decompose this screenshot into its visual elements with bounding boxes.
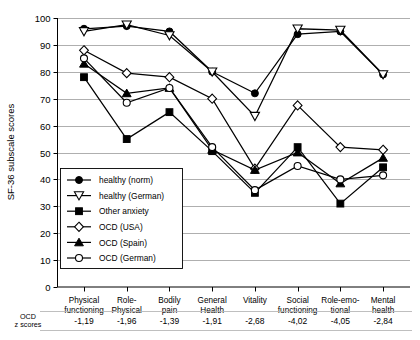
y-tick-label: 50 (40, 148, 51, 159)
y-tick-label: 40 (40, 174, 51, 185)
x-category-label: General (198, 296, 227, 305)
legend-item-ocd-spain-[interactable]: OCD (Spain) (67, 238, 147, 248)
data-point (79, 28, 88, 36)
zscore-value: -1,19 (74, 316, 94, 326)
zscore-values: -1,19-1,96-1,39-1,91-2,68-4,02-4,05-2,84 (74, 316, 393, 326)
y-tick-label: 100 (35, 13, 51, 24)
data-point (380, 164, 387, 171)
zscore-value: -4,02 (288, 316, 308, 326)
x-axis-category-labels: PhysicalfunctioningRole-PhysicalBodilypa… (64, 296, 395, 315)
data-point (208, 94, 217, 103)
series-line (84, 26, 383, 93)
legend-item-ocd-usa-[interactable]: OCD (USA) (67, 222, 143, 232)
legend-label: Other anxiety (99, 206, 150, 216)
data-point (337, 200, 344, 207)
legend-label: healthy (norm) (99, 175, 153, 185)
x-category-label: pain (162, 306, 178, 315)
legend-item-ocd-german-[interactable]: OCD (German) (67, 253, 156, 263)
legend-item-other-anxiety[interactable]: Other anxiety (67, 206, 150, 216)
y-tick-label: 60 (40, 121, 51, 132)
x-category-label: Role-emo- (321, 296, 359, 305)
data-point (209, 144, 216, 151)
x-category-label: Physical (111, 306, 142, 315)
x-category-label: functioning (64, 306, 104, 315)
data-point (166, 109, 173, 116)
x-category-label: Bodily (158, 296, 181, 305)
data-point (123, 136, 130, 143)
y-tick-label: 80 (40, 67, 51, 78)
data-point (122, 69, 131, 78)
data-point (250, 112, 259, 120)
data-point (123, 99, 130, 106)
y-axis-label: SF-36 subscale scores (5, 103, 16, 200)
x-category-label: functioning (278, 306, 318, 315)
data-point (166, 84, 173, 91)
legend-marker-icon (76, 255, 83, 262)
data-point (379, 154, 388, 162)
data-point (251, 187, 258, 194)
zscore-value: -2,84 (373, 316, 393, 326)
x-category-label: Role- (117, 296, 137, 305)
legend-label: OCD (Spain) (99, 238, 147, 248)
legend-item-healthy-norm-[interactable]: healthy (norm) (67, 175, 153, 185)
zscore-value: -1,39 (160, 316, 180, 326)
data-point (81, 74, 88, 81)
series-line (84, 64, 383, 184)
y-tick-label: 0 (45, 282, 50, 293)
legend-marker-icon (76, 177, 83, 184)
sf36-subscale-chart: 0102030405060708090100 SF-36 subscale sc… (0, 0, 420, 340)
y-tick-label: 20 (40, 228, 51, 239)
y-tick-label: 10 (40, 255, 51, 266)
x-category-label: Physical (69, 296, 100, 305)
y-axis-ticks: 0102030405060708090100 (35, 13, 58, 293)
data-point (337, 176, 344, 183)
x-axis-ticks (85, 287, 384, 292)
data-point (80, 55, 87, 62)
legend-label: healthy (German) (99, 191, 164, 201)
x-category-label: Health (200, 306, 224, 315)
series-ocd-usa- (80, 46, 388, 174)
data-point (294, 162, 301, 169)
chart-legend: healthy (norm)healthy (German)Other anxi… (61, 169, 183, 269)
data-point (380, 172, 387, 179)
y-tick-label: 90 (40, 40, 51, 51)
x-category-label: Mental (371, 296, 396, 305)
data-point (251, 90, 258, 97)
series-ocd-spain- (80, 60, 388, 187)
x-category-label: health (372, 306, 395, 315)
legend-label: OCD (German) (99, 253, 156, 263)
legend-label: OCD (USA) (99, 222, 143, 232)
zscore-value: -1,96 (117, 316, 137, 326)
x-category-label: tional (331, 306, 351, 315)
legend-marker-icon (76, 208, 83, 215)
chart-canvas: 0102030405060708090100 SF-36 subscale sc… (0, 0, 420, 340)
series-line (84, 50, 383, 168)
y-tick-label: 70 (40, 94, 51, 105)
data-point (80, 46, 89, 55)
y-tick-label: 30 (40, 201, 51, 212)
zscore-value: -4,05 (331, 316, 351, 326)
x-category-label: Vitality (243, 296, 268, 305)
zscore-value: -2,68 (245, 316, 265, 326)
data-point (165, 73, 174, 82)
zscore-value: -1,91 (202, 316, 222, 326)
zscore-row-label-line2: z scores (15, 320, 42, 329)
x-category-label: Social (286, 296, 308, 305)
